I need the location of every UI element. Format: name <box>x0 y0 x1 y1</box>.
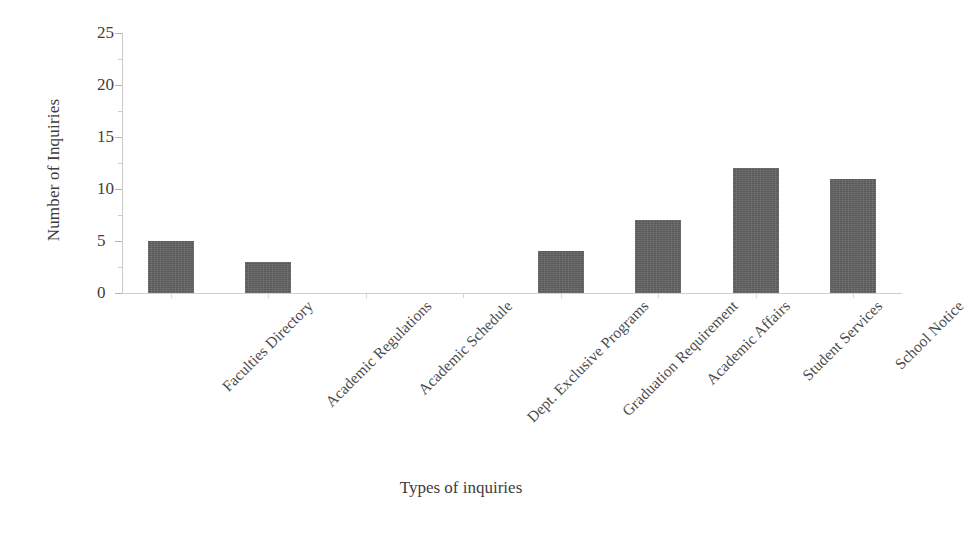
y-tick-mark <box>115 293 122 294</box>
bar <box>635 220 681 293</box>
plot-area: 0510152025 <box>122 33 902 293</box>
y-tick-label: 10 <box>97 179 104 199</box>
y-tick-mark <box>115 241 122 242</box>
x-axis-tick-labels: Faculties DirectoryAcademic RegulationsA… <box>122 297 922 457</box>
bar <box>830 179 876 293</box>
x-tick-label: Academic Regulations <box>322 297 436 411</box>
y-tick-mark <box>115 33 122 34</box>
bar <box>148 241 194 293</box>
y-tick-label: 0 <box>97 283 104 303</box>
y-tick-label: 15 <box>97 127 104 147</box>
bar <box>733 168 779 293</box>
y-tick-mark <box>115 85 122 86</box>
y-tick-mark <box>115 137 122 138</box>
bar <box>245 262 291 293</box>
x-axis-line <box>122 293 902 294</box>
y-tick-label: 25 <box>97 23 104 43</box>
bar <box>538 251 584 293</box>
y-tick-mark <box>115 189 122 190</box>
x-tick-label: School Notice <box>891 297 967 373</box>
y-tick-label: 20 <box>97 75 104 95</box>
x-tick-label: Student Services <box>799 297 886 384</box>
bars-layer <box>122 33 902 293</box>
x-tick-label: Faculties Directory <box>218 297 316 395</box>
y-tick-label: 5 <box>97 231 104 251</box>
x-axis-title: Types of inquiries <box>0 478 922 498</box>
y-axis-title: Number of Inquiries <box>44 60 66 280</box>
